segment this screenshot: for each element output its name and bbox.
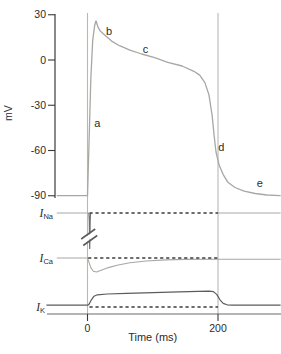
y-tick-label: -90 (31, 189, 46, 201)
y-tick-label: -60 (31, 144, 46, 156)
phase-label-d: d (218, 141, 224, 153)
ica-label: ICa (39, 252, 54, 266)
ica-trace (57, 258, 281, 272)
cardiac-action-potential-figure: 300-30-60-90mVabcdeINaICaIK0200Time (ms) (0, 0, 281, 354)
y-tick-label: -30 (31, 99, 46, 111)
membrane-potential-trace (57, 21, 281, 196)
y-axis-title: mV (2, 105, 14, 121)
phase-label-b: b (106, 25, 112, 37)
cardiac-ap-chart: 300-30-60-90mVabcdeINaICaIK0200Time (ms) (0, 0, 281, 354)
y-tick-label: 30 (34, 8, 46, 20)
ina-trace (89, 213, 91, 248)
x-axis-title: Time (ms) (128, 331, 177, 343)
x-tick-label-200: 200 (209, 322, 227, 334)
ik-trace (46, 291, 280, 305)
phase-label-a: a (94, 117, 101, 129)
x-tick-label-0: 0 (85, 322, 91, 334)
y-tick-label: 0 (40, 54, 46, 66)
ina-label: INa (39, 207, 54, 221)
phase-label-c: c (143, 43, 149, 55)
ik-label: IK (35, 301, 45, 315)
phase-label-e: e (257, 177, 263, 189)
